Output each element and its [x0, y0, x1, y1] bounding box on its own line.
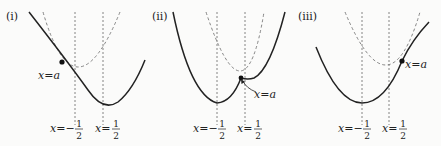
panel-i: (i) x=a x=− 1 2 x= 1 2: [6, 10, 145, 141]
panel-iii: (iii) x=a x=− 1 2 x= 1 2: [298, 10, 429, 141]
svg-text:1: 1: [113, 119, 119, 129]
svg-text:x=−: x=−: [193, 122, 218, 135]
panel-ii: (ii) x=a x=− 1 2 x= 1 2: [152, 10, 285, 141]
point-a: [399, 58, 404, 63]
svg-text:1: 1: [255, 119, 261, 129]
label-x-half: x= 1 2: [237, 119, 262, 141]
svg-text:2: 2: [255, 131, 261, 141]
point-a: [239, 76, 244, 81]
solid-parabola: [29, 12, 145, 105]
svg-text:x=−: x=−: [50, 122, 75, 135]
svg-text:1: 1: [219, 119, 225, 129]
svg-text:2: 2: [113, 131, 119, 141]
svg-text:2: 2: [364, 131, 370, 141]
point-a: [59, 59, 64, 64]
svg-text:x=: x=: [95, 122, 110, 135]
point-label: x=a: [405, 58, 427, 71]
panel-label-ii: (ii): [152, 10, 168, 23]
panel-label-i: (i): [6, 10, 18, 23]
svg-text:2: 2: [76, 131, 82, 141]
svg-text:x=: x=: [382, 122, 397, 135]
point-label: x=a: [38, 69, 60, 82]
svg-text:2: 2: [219, 131, 225, 141]
svg-text:x=: x=: [237, 122, 252, 135]
svg-text:1: 1: [76, 119, 82, 129]
diagram-canvas: (i) x=a x=− 1 2 x= 1 2 (ii): [0, 0, 441, 146]
svg-text:2: 2: [400, 131, 406, 141]
svg-text:x=−: x=−: [338, 122, 363, 135]
solid-parabola-right: [241, 12, 285, 79]
label-x-neg-half: x=− 1 2: [338, 119, 371, 141]
label-x-neg-half: x=− 1 2: [50, 119, 83, 141]
svg-text:1: 1: [364, 119, 370, 129]
label-x-half: x= 1 2: [382, 119, 407, 141]
dashed-parabola: [206, 12, 264, 71]
solid-parabola-left: [173, 12, 241, 103]
dashed-parabola: [43, 12, 120, 67]
label-x-half: x= 1 2: [95, 119, 120, 141]
svg-text:1: 1: [400, 119, 406, 129]
label-x-neg-half: x=− 1 2: [193, 119, 226, 141]
point-label: x=a: [254, 88, 276, 101]
panel-label-iii: (iii): [298, 10, 317, 23]
